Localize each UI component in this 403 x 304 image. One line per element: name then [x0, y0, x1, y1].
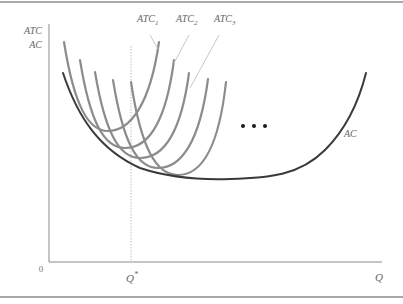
atc-curve-1 — [64, 42, 159, 131]
atc2-leader-line — [174, 35, 189, 63]
atc-curve-3 — [95, 72, 189, 158]
y-axis-label-atc: ATC — [23, 25, 42, 36]
q-star-label: Q* — [126, 270, 138, 284]
y-axis-label-ac: AC — [28, 39, 42, 50]
ellipsis-dots — [241, 124, 267, 128]
origin-label: 0 — [39, 264, 44, 274]
x-axis-label: Q — [375, 271, 383, 283]
atc1-leader-line — [150, 35, 158, 49]
cost-curves-diagram: ATC AC ATC1 ATC2 ATC3 AC 0 Q* Q — [0, 0, 403, 304]
atc3-label: ATC3 — [213, 13, 236, 27]
atc1-label: ATC1 — [136, 13, 158, 27]
atc3-leader-line — [190, 35, 219, 88]
ac-curve-label: AC — [343, 128, 357, 139]
atc2-label: ATC2 — [175, 13, 198, 27]
